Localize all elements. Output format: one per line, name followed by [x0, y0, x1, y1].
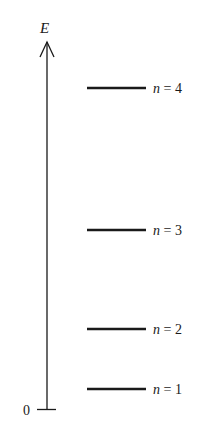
level-label-n2: n = 2	[153, 322, 182, 337]
origin-label: 0	[23, 403, 30, 418]
level-label-n1: n = 1	[153, 382, 182, 397]
level-label-n3: n = 3	[153, 223, 182, 238]
energy-level-diagram: E 0 n = 4 n = 3 n = 2 n = 1	[0, 0, 219, 442]
level-label-n4: n = 4	[153, 81, 182, 96]
axis-label-e: E	[39, 20, 49, 36]
